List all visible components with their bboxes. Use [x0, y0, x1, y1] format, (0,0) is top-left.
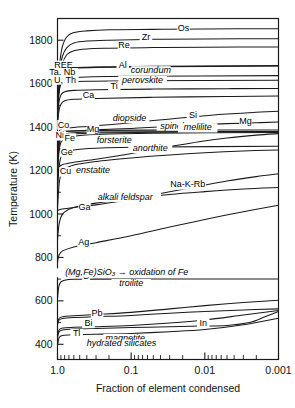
series-label-u-th: U, Th: [54, 75, 76, 85]
series-label-re: Re: [118, 40, 130, 50]
x-tick-label: 0.01: [195, 364, 216, 376]
mineral-label-mg-forsterite: forsterite: [97, 135, 132, 145]
condensation-sequence-figure: 180016001400120010008006004001.00.10.010…: [0, 0, 295, 408]
curve-ag: [58, 205, 279, 261]
y-tick-label: 1600: [29, 77, 53, 89]
data-curves: [58, 29, 279, 346]
x-tick-label: 1.0: [50, 364, 65, 376]
y-tick-label: 1400: [29, 121, 53, 133]
x-tick-label: 0.001: [265, 364, 291, 376]
mineral-label-ti-perovskite: perovskite: [121, 75, 163, 85]
series-label-si-diopside: Si: [189, 110, 197, 120]
chart-canvas: 180016001400120010008006004001.00.10.010…: [0, 0, 295, 408]
series-label-in: In: [200, 318, 208, 328]
series-label-fe: Fe: [65, 133, 76, 143]
mineral-label-s-troilite: troilite: [119, 278, 143, 288]
annotation-s-troilite: (Mg,Fe)SiO₃ → oxidation of Fe: [65, 267, 188, 277]
series-label-os: Os: [178, 23, 190, 33]
inline-series-labels: OsZrReREEAlcorundumTa, NbU, ThTiperovski…: [47, 23, 252, 349]
mineral-label2-mg-spinel-melilite: melilite: [184, 122, 212, 132]
curve-s-troilite: [58, 279, 279, 299]
mineral-label-cu-enstatite: enstatite: [76, 165, 110, 175]
series-label-ge: Ge: [61, 147, 73, 157]
series-label-co: Co: [58, 120, 70, 130]
series-label-ni: Ni: [56, 130, 65, 140]
y-axis-title: Temperature (K): [7, 151, 19, 227]
x-axis-title: Fraction of element condensed: [96, 382, 240, 394]
y-tick-label: 600: [35, 294, 53, 306]
series-label-ca: Ca: [83, 90, 95, 100]
series-label-mg-spinel-melilite: Mg: [239, 116, 252, 126]
series-label-ti-perovskite: Ti: [111, 81, 118, 91]
series-label-mg-forsterite: Mg: [87, 124, 100, 134]
series-label-tl: Tl: [73, 328, 81, 338]
y-tick-label: 1800: [29, 34, 53, 46]
series-label-cu-enstatite: Cu: [60, 166, 72, 176]
series-label-pb: Pb: [92, 308, 103, 318]
mineral-label2-tl: hydrated silicates: [87, 338, 157, 348]
series-label-zr: Zr: [142, 32, 151, 42]
y-tick-label: 800: [35, 251, 53, 263]
x-tick-label: 0.1: [124, 364, 139, 376]
y-tick-label: 400: [35, 338, 53, 350]
series-label-bi: Bi: [84, 318, 92, 328]
series-label-na-k-rb: Na-K-Rb: [170, 179, 205, 189]
series-label-ag: Ag: [78, 237, 89, 247]
mineral-label-anorthite: anorthite: [133, 143, 168, 153]
series-label-al-corundum: Al: [119, 60, 127, 70]
y-tick-label: 1000: [29, 208, 53, 220]
y-tick-label: 1200: [29, 164, 53, 176]
mineral-label-al-corundum: corundum: [131, 65, 172, 75]
series-label-ga-alkali-feldspar: Ga: [78, 202, 90, 212]
mineral-label-ga-alkali-feldspar: alkali feldspar: [98, 192, 154, 202]
mineral-label-si-diopside: diopside: [113, 113, 147, 123]
